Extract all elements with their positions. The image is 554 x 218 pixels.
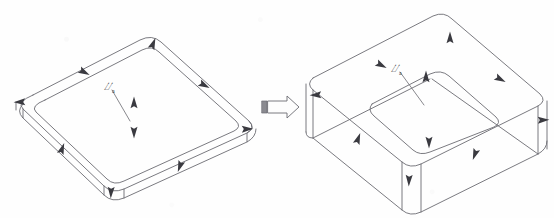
left-arrowheads (13, 37, 253, 199)
right-top-face-outer (310, 14, 544, 166)
right-arrowheads (309, 32, 549, 187)
left-leader-line (112, 90, 130, 121)
direction-arrowheads (13, 32, 549, 199)
right-label-group: ⌰ a (391, 62, 402, 76)
left-label-subscript: a (112, 88, 115, 94)
right-thick-box (306, 14, 547, 214)
block-arrow-body (268, 96, 299, 118)
block-arrow-tail-bar (262, 101, 267, 113)
left-thin-slab (16, 37, 256, 199)
left-slab-edge-right (247, 121, 256, 142)
right-box-mid-line-2 (432, 79, 538, 154)
left-slab-edge-left (20, 104, 24, 118)
transition-block-arrow (262, 96, 299, 118)
left-top-face-inner (34, 48, 238, 183)
symbol-labels: ⌰ a ⌰ a (104, 62, 402, 94)
left-label-group: ⌰ a (104, 80, 115, 94)
diagram-canvas: ⌰ a ⌰ a (0, 0, 554, 218)
right-label-subscript: a (399, 70, 402, 76)
right-bottom-front-left (306, 132, 547, 214)
right-leader-line (400, 72, 424, 105)
left-top-face-outer (21, 37, 252, 190)
right-box-mid-line (313, 79, 430, 138)
isometric-diagram-svg: ⌰ a ⌰ a (0, 0, 554, 218)
